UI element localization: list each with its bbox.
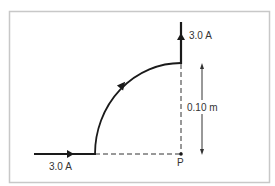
radius-arrow-down-icon [200,149,204,155]
radius-label: 0.10 m [187,102,218,113]
frame-border [10,12,270,183]
radius-arrow-up-icon [200,63,204,69]
point-p-label: P [177,157,184,168]
incoming-current-arrow-icon [67,150,74,158]
quarter-arc-wire [95,63,181,154]
outgoing-current-label: 3.0 A [189,30,212,41]
outgoing-current-arrow-icon [177,33,185,40]
incoming-current-label: 3.0 A [49,161,72,172]
arc-current-arrow-icon [117,79,128,90]
point-p-marker [179,152,183,156]
diagram-canvas: 3.0 A 3.0 A 0.10 m P [0,0,275,186]
